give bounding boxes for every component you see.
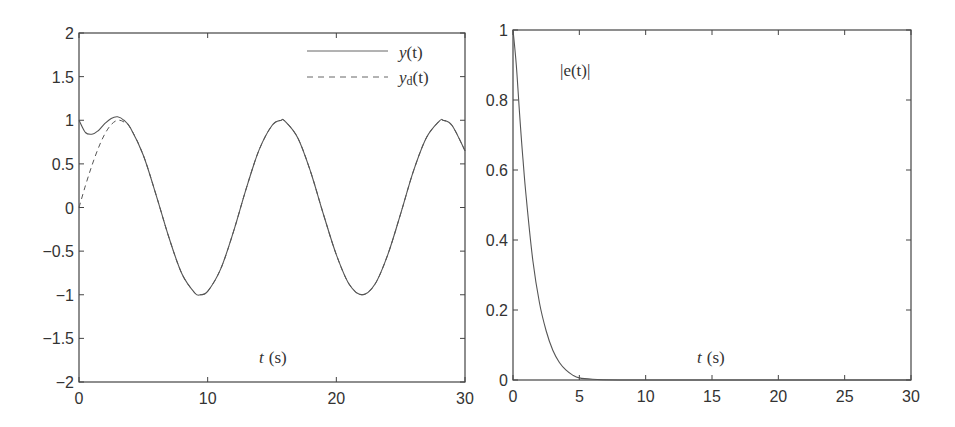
- right-y-axis-ticks: 10.80.60.40.20: [486, 22, 911, 389]
- y-tick-label: 1.5: [52, 69, 74, 86]
- y-tick-label: 0.2: [486, 302, 508, 319]
- y-tick-label: 0.6: [486, 162, 508, 179]
- y-tick-label: −1.5: [42, 330, 74, 347]
- right-x-axis-label: t(s): [697, 348, 725, 367]
- legend: y(t) yd(t): [307, 43, 429, 88]
- x-tick-label: 10: [199, 390, 217, 407]
- figure-canvas: 21.510.50−0.5−1−1.5−2 0102030 y(t) yd(t)…: [0, 0, 955, 427]
- y-tick-label: 0: [65, 200, 74, 217]
- y-tick-label: 0.5: [52, 156, 74, 173]
- x-tick-label: 30: [456, 390, 474, 407]
- left-x-axis-label: t(s): [259, 348, 287, 367]
- right-plot-error: 10.80.60.40.20 051015202530 |e(t)| t(s): [486, 22, 920, 405]
- x-tick-label: 25: [836, 388, 854, 405]
- right-axes-box: [513, 30, 911, 380]
- x-tick-label: 0: [75, 390, 84, 407]
- error-annotation: |e(t)|: [560, 61, 590, 80]
- left-plot-tracking: 21.510.50−0.5−1−1.5−2 0102030 y(t) yd(t)…: [42, 25, 474, 407]
- legend-label-y: y(t): [397, 43, 423, 62]
- legend-label-yd: yd(t): [397, 68, 429, 88]
- x-tick-label: 20: [327, 390, 345, 407]
- error-magnitude-line: [513, 30, 911, 380]
- y-tick-label: 0: [499, 372, 508, 389]
- y-tick-label: −1: [56, 287, 74, 304]
- y-tick-label: −0.5: [42, 243, 74, 260]
- x-tick-label: 5: [575, 388, 584, 405]
- y-tick-label: 1: [65, 112, 74, 129]
- x-tick-label: 10: [637, 388, 655, 405]
- x-tick-label: 30: [902, 388, 920, 405]
- y-tick-label: 0.8: [486, 92, 508, 109]
- y-tick-label: 2: [65, 25, 74, 42]
- x-tick-label: 20: [769, 388, 787, 405]
- yd-dashed-line: [79, 119, 465, 295]
- y-tick-label: 0.4: [486, 232, 508, 249]
- y-tick-label: 1: [499, 22, 508, 39]
- y-tick-label: −2: [56, 374, 74, 391]
- y-solid-line: [79, 117, 465, 296]
- x-tick-label: 0: [509, 388, 518, 405]
- x-tick-label: 15: [703, 388, 721, 405]
